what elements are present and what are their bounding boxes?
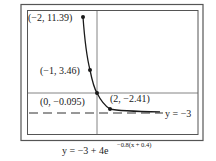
equation-caption: y = −3 + 4e — [62, 145, 109, 156]
point-label: (2, −2.41) — [110, 93, 150, 105]
point-marker — [88, 68, 92, 72]
point-marker — [95, 91, 99, 95]
equation-exponent: −0.8(x + 0.4) — [117, 141, 151, 149]
point-label: (0, −0.095) — [40, 96, 85, 108]
point-label: (−1, 3.46) — [40, 65, 80, 77]
asymptote-label: y = −3 — [165, 108, 191, 119]
point-label: (−2, 11.39) — [28, 12, 72, 24]
graph-figure: (−2, 11.39) (−1, 3.46) (0, −0.095) (2, −… — [0, 0, 216, 161]
point-marker — [81, 15, 85, 19]
point-marker — [108, 107, 112, 111]
